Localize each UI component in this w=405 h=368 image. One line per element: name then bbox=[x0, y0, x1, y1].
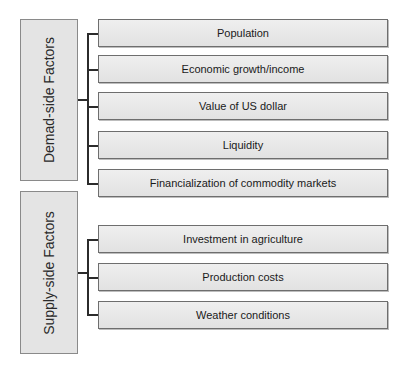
demand-connector-branch bbox=[87, 183, 98, 185]
demand-connector-spine bbox=[87, 33, 89, 184]
factor-us-dollar: Value of US dollar bbox=[98, 92, 388, 120]
demand-connector-branch bbox=[87, 69, 98, 71]
factor-economic-growth: Economic growth/income bbox=[98, 55, 388, 83]
demand-side-label: Demad-side Factors bbox=[41, 37, 57, 163]
supply-side-factors-box: Supply-side Factors bbox=[20, 191, 78, 354]
factor-population: Population bbox=[98, 19, 388, 47]
supply-side-label: Supply-side Factors bbox=[41, 211, 57, 335]
supply-connector-branch bbox=[87, 239, 98, 241]
demand-connector-branch bbox=[87, 145, 98, 147]
factor-production-costs: Production costs bbox=[98, 263, 388, 291]
factor-financialization: Financialization of commodity markets bbox=[98, 169, 388, 197]
supply-connector-branch bbox=[87, 314, 98, 316]
factor-investment-agriculture: Investment in agriculture bbox=[98, 225, 388, 253]
factor-liquidity: Liquidity bbox=[98, 131, 388, 159]
supply-connector-branch bbox=[87, 277, 98, 279]
demand-connector-branch bbox=[87, 106, 98, 108]
demand-connector-branch bbox=[87, 33, 98, 35]
factor-weather-conditions: Weather conditions bbox=[98, 301, 388, 329]
demand-side-factors-box: Demad-side Factors bbox=[20, 19, 78, 181]
